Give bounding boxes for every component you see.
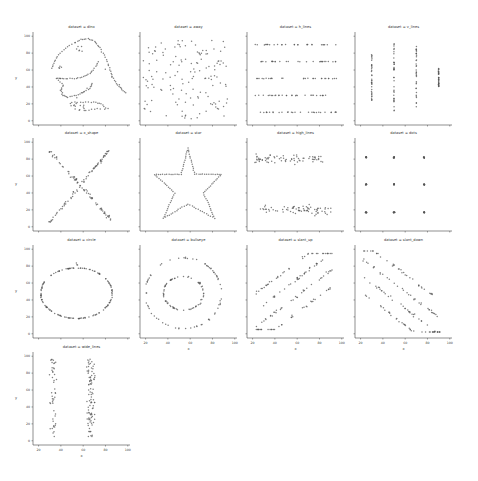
scatter-points (40, 262, 113, 319)
x-axis-label: x (294, 347, 297, 351)
panel-title: dataset = slant_down (384, 238, 423, 242)
x-tick-label: 40 (381, 341, 385, 345)
y-tick-label: 100 (24, 34, 30, 38)
x-tick-label: 20 (37, 448, 41, 452)
scatter-points (362, 250, 440, 333)
scatter-points (145, 257, 222, 330)
x-tick-label: 80 (317, 341, 321, 345)
scatter-points (371, 43, 440, 112)
y-tick-label: 40 (26, 191, 30, 195)
x-tick-label: 60 (403, 341, 407, 345)
y-tick-label: 40 (26, 85, 30, 89)
panel-title: dataset = wide_lines (63, 345, 101, 349)
facet-panel-slant_up: dataset = slant_up20406080100x (246, 238, 345, 351)
scatter-points (255, 44, 338, 114)
y-tick-label: 40 (26, 405, 30, 409)
y-tick-label: 80 (26, 51, 30, 55)
x-tick-label: 60 (295, 341, 299, 345)
scatter-points (365, 156, 426, 213)
panel-title: dataset = x_shape (65, 131, 99, 135)
scatter-points (254, 153, 331, 216)
x-tick-label: 40 (166, 341, 170, 345)
panel-title: dataset = slant_up (279, 238, 314, 242)
scatter-points (256, 253, 333, 331)
facet-panel-x_shape: dataset = x_shape020406080100y (15, 131, 130, 233)
y-axis-label: y (15, 396, 18, 400)
y-tick-label: 100 (24, 140, 30, 144)
facet-panel-away: dataset = away (139, 25, 238, 127)
y-tick-label: 20 (26, 102, 30, 106)
y-tick-label: 0 (28, 225, 30, 229)
scatter-points (49, 359, 96, 438)
facet-panel-v_lines: dataset = v_lines (354, 25, 453, 127)
x-tick-label: 100 (339, 341, 345, 345)
y-tick-label: 80 (26, 371, 30, 375)
panel-title: dataset = h_lines (280, 25, 311, 29)
x-tick-label: 100 (232, 341, 238, 345)
x-axis-label: x (402, 347, 405, 351)
x-tick-label: 20 (144, 341, 148, 345)
facet-panel-circle: dataset = circle020406080100y (15, 238, 130, 340)
x-tick-label: 40 (59, 448, 63, 452)
y-tick-label: 100 (24, 354, 30, 358)
panel-title: dataset = v_lines (388, 25, 419, 29)
y-tick-label: 80 (26, 264, 30, 268)
panel-title: dataset = star (176, 131, 202, 135)
y-tick-label: 80 (26, 157, 30, 161)
scatter-points (51, 38, 126, 112)
facet-panel-dots: dataset = dots (354, 131, 453, 233)
facet-grid: dataset = dino020406080100ydataset = awa… (0, 0, 478, 481)
y-axis-label: y (15, 182, 18, 186)
y-tick-label: 60 (26, 68, 30, 72)
y-tick-label: 100 (24, 247, 30, 251)
y-tick-label: 20 (26, 208, 30, 212)
y-tick-label: 0 (28, 439, 30, 443)
x-tick-label: 60 (81, 448, 85, 452)
panel-title: dataset = high_lines (277, 131, 314, 135)
panel-title: dataset = away (174, 25, 203, 29)
y-tick-label: 20 (26, 422, 30, 426)
panel-title: dataset = circle (67, 238, 96, 242)
facet-panel-dino: dataset = dino020406080100y (15, 25, 130, 127)
x-tick-label: 40 (273, 341, 277, 345)
facet-panel-high_lines: dataset = high_lines (246, 131, 345, 233)
y-tick-label: 60 (26, 174, 30, 178)
y-axis-label: y (15, 76, 18, 80)
x-axis-label: x (80, 454, 83, 458)
x-tick-label: 80 (210, 341, 214, 345)
scatter-points (48, 150, 111, 223)
x-tick-label: 100 (125, 448, 131, 452)
panel-title: dataset = bullseye (172, 238, 207, 242)
scatter-points (143, 40, 228, 120)
x-tick-label: 80 (425, 341, 429, 345)
panel-title: dataset = dino (68, 25, 95, 29)
panel-title: dataset = dots (390, 131, 417, 135)
y-tick-label: 0 (28, 332, 30, 336)
scatter-points (154, 147, 222, 219)
facet-panel-h_lines: dataset = h_lines (246, 25, 345, 127)
y-tick-label: 0 (28, 119, 30, 123)
y-tick-label: 20 (26, 315, 30, 319)
facet-panel-wide_lines: dataset = wide_lines20406080100x02040608… (15, 345, 131, 458)
facet-panel-bullseye: dataset = bullseye20406080100x (139, 238, 238, 351)
facet-panel-star: dataset = star (139, 131, 238, 233)
x-tick-label: 20 (251, 341, 255, 345)
x-tick-label: 60 (188, 341, 192, 345)
y-tick-label: 60 (26, 388, 30, 392)
x-tick-label: 80 (103, 448, 107, 452)
x-tick-label: 100 (447, 341, 453, 345)
facet-panel-slant_down: dataset = slant_down20406080100x (354, 238, 453, 351)
y-axis-label: y (15, 289, 18, 293)
y-tick-label: 40 (26, 298, 30, 302)
y-tick-label: 60 (26, 281, 30, 285)
x-tick-label: 20 (359, 341, 363, 345)
x-axis-label: x (187, 347, 190, 351)
